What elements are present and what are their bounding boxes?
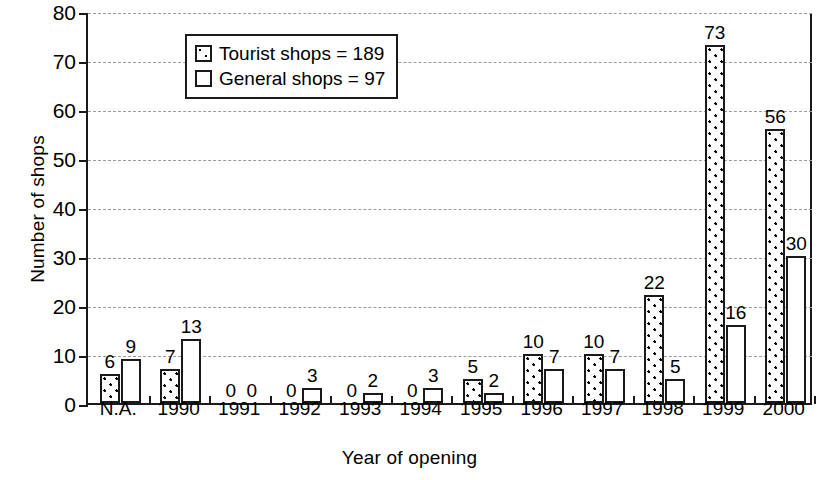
legend-item-tourist: Tourist shops = 189: [195, 41, 385, 66]
x-tick: [149, 396, 151, 404]
x-tick: [572, 396, 574, 404]
gridline: [88, 160, 812, 161]
y-tick: [79, 356, 88, 358]
bar-value-label: 5: [670, 356, 681, 378]
x-tick: [814, 396, 816, 404]
x-tick: [693, 396, 695, 404]
y-tick: [79, 13, 88, 15]
bar-value-label: 6: [104, 351, 115, 373]
bar-value-label: 3: [307, 365, 318, 387]
x-tick-label-1991: 1991: [218, 398, 260, 420]
x-tick-label-1997: 1997: [581, 398, 623, 420]
bar-tourist-1996: [523, 354, 543, 403]
bar-value-label: 13: [181, 316, 202, 338]
y-tick-label: 50: [53, 148, 76, 172]
plot-area: 01020304050607080 6971300030203521071072…: [86, 13, 812, 405]
y-tick: [79, 62, 88, 64]
y-tick-label: 10: [53, 344, 76, 368]
gridline: [88, 209, 812, 210]
bar-value-label: 73: [704, 22, 725, 44]
bar-value-label: 16: [725, 302, 746, 324]
x-tick-label-1996: 1996: [521, 398, 563, 420]
y-tick-label: 70: [53, 50, 76, 74]
bar-general-NA: [121, 359, 141, 403]
y-tick: [79, 111, 88, 113]
y-tick: [79, 209, 88, 211]
y-tick: [79, 405, 88, 407]
x-tick: [754, 396, 756, 404]
y-tick: [79, 307, 88, 309]
x-tick: [391, 396, 393, 404]
bar-value-label: 56: [765, 106, 786, 128]
gridline: [88, 258, 812, 259]
bar-value-label: 2: [488, 370, 499, 392]
gridline: [88, 111, 812, 112]
x-tick-label-1992: 1992: [279, 398, 321, 420]
y-tick: [79, 258, 88, 260]
x-tick-label-1993: 1993: [339, 398, 381, 420]
bar-value-label: 2: [367, 370, 378, 392]
legend-swatch-dotted-icon: [195, 45, 212, 62]
x-tick: [209, 396, 211, 404]
bar-value-label: 7: [549, 346, 560, 368]
x-tick-label-1990: 1990: [158, 398, 200, 420]
bar-tourist-1997: [584, 354, 604, 403]
x-tick-label-2000: 2000: [763, 398, 805, 420]
bar-value-label: 30: [786, 233, 807, 255]
gridline: [88, 13, 812, 14]
x-tick: [512, 396, 514, 404]
bar-value-label: 7: [609, 346, 620, 368]
y-tick: [79, 160, 88, 162]
legend-label-general: General shops = 97: [219, 68, 385, 90]
y-tick-label: 0: [64, 393, 76, 417]
chart-root: Number of shops Year of opening 01020304…: [0, 0, 819, 480]
y-tick-label: 80: [53, 1, 76, 25]
x-tick: [330, 396, 332, 404]
gridline: [88, 307, 812, 308]
bar-tourist-1999: [705, 45, 725, 403]
bar-tourist-2000: [765, 129, 785, 403]
x-tick-label-NA: N.A.: [100, 398, 137, 420]
bar-value-label: 9: [125, 336, 136, 358]
legend-swatch-white-icon: [195, 70, 212, 87]
bar-general-1990: [181, 339, 201, 403]
x-tick-label-1995: 1995: [460, 398, 502, 420]
x-axis-title: Year of opening: [0, 447, 819, 469]
bar-value-label: 3: [428, 365, 439, 387]
x-tick-label-1999: 1999: [702, 398, 744, 420]
x-tick: [270, 396, 272, 404]
y-tick-label: 30: [53, 246, 76, 270]
bar-value-label: 22: [644, 272, 665, 294]
legend: Tourist shops = 189 General shops = 97: [185, 34, 398, 99]
bar-value-label: 7: [165, 346, 176, 368]
y-tick-label: 40: [53, 197, 76, 221]
legend-item-general: General shops = 97: [195, 66, 385, 91]
bar-value-label: 5: [467, 356, 478, 378]
bar-general-1999: [726, 325, 746, 403]
bar-tourist-1998: [644, 295, 664, 403]
y-tick-label: 20: [53, 295, 76, 319]
y-axis-title: Number of shops: [27, 79, 49, 339]
x-tick: [451, 396, 453, 404]
bar-value-label: 10: [583, 331, 604, 353]
bar-general-2000: [786, 256, 806, 403]
y-tick-label: 60: [53, 99, 76, 123]
x-tick-label-1994: 1994: [400, 398, 442, 420]
bar-value-label: 10: [523, 331, 544, 353]
x-tick-label-1998: 1998: [642, 398, 684, 420]
x-tick: [633, 396, 635, 404]
legend-label-tourist: Tourist shops = 189: [219, 43, 384, 65]
